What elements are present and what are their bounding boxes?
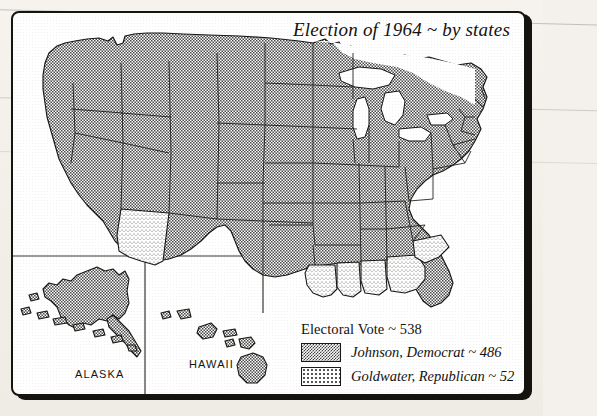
aleutian-island-3 (37, 311, 49, 319)
hawaii-maui (239, 337, 255, 349)
aleutian-island-7 (111, 335, 123, 343)
aleutian-island-2 (21, 307, 31, 315)
aleutian-island-1 (29, 293, 39, 301)
state-louisiana (305, 265, 337, 297)
state-arizona (117, 209, 169, 265)
hawaii-label: HAWAII (189, 358, 234, 370)
state-alabama (361, 260, 387, 295)
legend-swatch-democrat (301, 343, 341, 362)
legend-label-democrat: Johnson, Democrat ~ 486 (351, 344, 501, 361)
hawaii-big-island (237, 353, 267, 383)
alaska-label: ALASKA (75, 368, 124, 380)
legend-swatch-republican (301, 367, 341, 386)
alaska-inset (21, 267, 141, 357)
map-legend: Electoral Vote ~ 538 Johnson, Democrat ~… (301, 321, 511, 386)
inset-dividers (13, 256, 263, 394)
legend-label-republican: Goldwater, Republican ~ 52 (351, 368, 514, 385)
hawaii-inset (161, 309, 267, 383)
aleutian-island-6 (93, 329, 105, 337)
hawaii-niihau (161, 311, 171, 319)
lake-michigan (353, 97, 369, 139)
aleutian-island-5 (73, 323, 85, 331)
aleutian-island-4 (53, 317, 67, 325)
aleutian-island-8 (127, 345, 137, 351)
state-mississippi (337, 262, 361, 297)
legend-total: Electoral Vote ~ 538 (301, 321, 511, 338)
hawaii-lanai (225, 339, 235, 347)
legend-item-johnson: Johnson, Democrat ~ 486 (301, 343, 511, 362)
map-frame: Election of 1964 ~ by states (11, 11, 526, 396)
hawaii-kauai (177, 309, 191, 319)
hawaii-oahu (197, 323, 217, 339)
hawaii-molokai (223, 329, 237, 337)
legend-item-goldwater: Goldwater, Republican ~ 52 (301, 367, 511, 386)
